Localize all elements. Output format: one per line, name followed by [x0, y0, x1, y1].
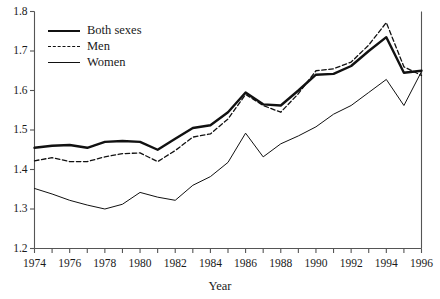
chart-legend: Both sexesMenWomen — [48, 22, 142, 70]
x-axis-title: Year — [0, 279, 440, 294]
y-tick-label: 1.5 — [0, 124, 28, 136]
legend-swatch-icon — [48, 41, 80, 51]
line-chart: 1.21.31.41.51.61.71.8 197419761978198019… — [0, 0, 440, 299]
y-tick-label: 1.7 — [0, 45, 28, 57]
legend-swatch-icon — [48, 25, 80, 35]
legend-item: Both sexes — [48, 22, 142, 38]
legend-item-label: Both sexes — [87, 24, 142, 37]
y-tick-label: 1.4 — [0, 164, 28, 176]
series-line-women — [35, 72, 422, 209]
y-tick-label: 1.6 — [0, 85, 28, 97]
legend-item: Men — [48, 38, 142, 54]
legend-item: Women — [48, 54, 142, 70]
legend-item-label: Men — [87, 40, 110, 53]
x-tick-label: 1996 — [400, 258, 440, 270]
y-tick-label: 1.8 — [0, 6, 28, 18]
y-tick-label: 1.2 — [0, 243, 28, 255]
y-tick-label: 1.3 — [0, 203, 28, 215]
legend-item-label: Women — [87, 56, 126, 69]
legend-swatch-icon — [48, 57, 80, 67]
